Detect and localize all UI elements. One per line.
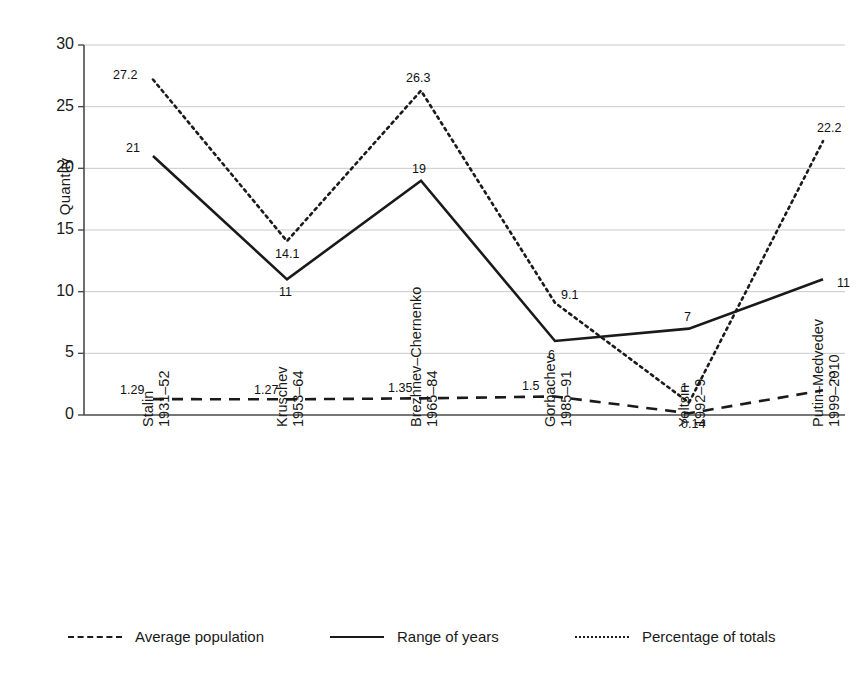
- y-tick-label: 5: [26, 343, 74, 361]
- data-label: 21: [126, 141, 140, 155]
- y-tick-label: 15: [26, 220, 74, 238]
- legend-item[interactable]: Percentage of totals: [575, 628, 775, 645]
- chart-figure: Quantity 051015202530 Stalin1931–52Krusc…: [0, 0, 865, 677]
- data-label: 14.1: [275, 247, 299, 261]
- legend-label: Average population: [135, 628, 264, 645]
- x-tick-label: Putin–Medvedev1999–2010: [810, 319, 842, 427]
- x-tick-leader-name: Brezhnev–Chernenko: [408, 287, 424, 427]
- y-tick-label: 20: [26, 158, 74, 176]
- data-label: 26.3: [406, 71, 430, 85]
- data-label: 7: [684, 310, 691, 324]
- x-tick-label: Gorbachev1985–91: [542, 356, 574, 427]
- data-label: 0.14: [681, 417, 705, 431]
- y-tick-label: 10: [26, 282, 74, 300]
- x-tick-label: Stalin1931–52: [140, 371, 172, 427]
- x-tick-leader-years: 1953–64: [290, 367, 306, 427]
- x-tick-leader-name: Gorbachev: [542, 356, 558, 427]
- y-tick-label: 30: [26, 35, 74, 53]
- legend-item[interactable]: Average population: [68, 628, 264, 645]
- legend-line-icon: [575, 631, 629, 643]
- x-tick-label: Kruschev1953–64: [274, 367, 306, 427]
- data-label: 1.29: [120, 383, 144, 397]
- data-label: 1.5: [522, 379, 539, 393]
- x-tick-leader-name: Putin–Medvedev: [810, 319, 826, 427]
- x-tick-leader-years: 1931–52: [156, 371, 172, 427]
- y-tick-label: 0: [26, 405, 74, 423]
- x-tick-leader-years: 1965–84: [424, 287, 440, 427]
- data-label: 2: [829, 370, 836, 384]
- data-label: 9.1: [561, 288, 578, 302]
- data-label: 1.35: [388, 381, 412, 395]
- data-label: 1: [681, 381, 688, 395]
- x-tick-leader-years: 1985–91: [558, 356, 574, 427]
- data-label: 27.2: [113, 68, 137, 82]
- chart-legend: Average populationRange of yearsPercenta…: [0, 620, 865, 660]
- y-tick-label: 25: [26, 97, 74, 115]
- data-label: 11: [279, 285, 292, 299]
- legend-label: Range of years: [397, 628, 499, 645]
- legend-item[interactable]: Range of years: [330, 628, 499, 645]
- data-label: 6: [548, 348, 555, 362]
- legend-line-icon: [68, 631, 122, 643]
- data-label: 22.2: [817, 121, 841, 135]
- data-label: 1.27: [254, 383, 278, 397]
- x-tick-leader-name: Stalin: [140, 371, 156, 427]
- data-label: 19: [412, 162, 426, 176]
- legend-line-icon: [330, 631, 384, 643]
- legend-label: Percentage of totals: [642, 628, 775, 645]
- series-line-1: [153, 156, 823, 341]
- x-tick-label: Brezhnev–Chernenko1965–84: [408, 287, 440, 427]
- series-line-2: [153, 80, 823, 403]
- data-label: 11: [837, 276, 850, 290]
